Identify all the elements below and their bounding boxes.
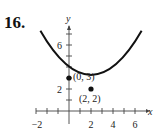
point-label-2-2: (2, 2) <box>79 93 101 105</box>
graph: x y −2 2 4 6 2 6 (0, 3) (2, 2) <box>0 0 167 138</box>
y-arrow-icon <box>67 25 71 30</box>
parabola-curve <box>40 31 141 75</box>
point-0-3 <box>66 75 71 80</box>
y-tick-6: 6 <box>57 40 62 51</box>
y-axis-label: y <box>65 13 71 24</box>
x-tick-2: 2 <box>89 119 94 130</box>
point-2-2 <box>88 86 93 91</box>
x-axis-label: x <box>147 106 153 117</box>
y-tick-2: 2 <box>57 84 62 95</box>
x-tick-neg2: −2 <box>32 119 43 130</box>
x-tick-6: 6 <box>133 119 138 130</box>
x-tick-4: 4 <box>111 119 116 130</box>
point-label-0-3: (0, 3) <box>73 71 95 83</box>
